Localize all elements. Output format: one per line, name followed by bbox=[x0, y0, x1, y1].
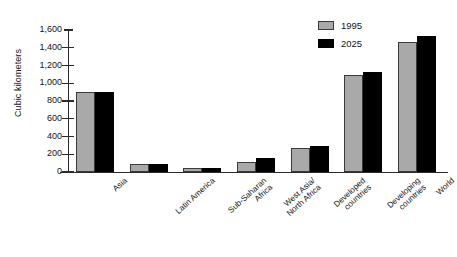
legend-swatch-1995-icon bbox=[318, 21, 334, 30]
bar-1995 bbox=[291, 148, 310, 172]
y-tick-label: 600 bbox=[16, 114, 62, 123]
bar-2025 bbox=[256, 158, 275, 172]
plot-area bbox=[68, 30, 444, 172]
bar-1995 bbox=[237, 162, 256, 172]
x-axis-label: World bbox=[435, 176, 457, 197]
y-tick-label: 400 bbox=[16, 132, 62, 141]
legend-label-2025: 2025 bbox=[341, 39, 362, 49]
y-tick-label: 1,600 bbox=[16, 25, 62, 34]
x-axis-label: Developedcountries bbox=[332, 176, 374, 216]
bar-1995 bbox=[344, 75, 363, 172]
x-axis-line bbox=[60, 172, 448, 173]
y-tick-label: 1,000 bbox=[16, 78, 62, 87]
bar-group bbox=[76, 30, 114, 172]
y-tick-label: 800 bbox=[16, 96, 62, 105]
bar-group bbox=[398, 30, 436, 172]
chart-legend: 1995 2025 bbox=[318, 18, 362, 54]
bar-2025 bbox=[95, 92, 114, 172]
y-tick-label: 1,200 bbox=[16, 61, 62, 70]
bar-2025 bbox=[149, 164, 168, 172]
y-tick-label: 0 bbox=[16, 167, 62, 176]
bar-2025 bbox=[202, 168, 221, 172]
legend-item-1995: 1995 bbox=[318, 18, 362, 33]
bar-1995 bbox=[398, 42, 417, 172]
y-tick-label: 1,400 bbox=[16, 43, 62, 52]
y-tick-label: 200 bbox=[16, 149, 62, 158]
legend-label-1995: 1995 bbox=[341, 21, 362, 31]
x-axis-label: West Asia/North Africa bbox=[279, 176, 323, 219]
bar-2025 bbox=[417, 36, 436, 172]
bar-1995 bbox=[183, 168, 202, 172]
legend-swatch-2025-icon bbox=[318, 39, 334, 48]
bar-1995 bbox=[76, 92, 95, 172]
x-axis-label: Developingcountries bbox=[386, 176, 429, 217]
bar-group bbox=[183, 30, 221, 172]
x-axis-label: Latin America bbox=[173, 176, 216, 216]
x-axis-label: Sub-SaharanAfrica bbox=[227, 176, 275, 222]
bar-group bbox=[130, 30, 168, 172]
legend-item-2025: 2025 bbox=[318, 36, 362, 51]
bar-2025 bbox=[310, 146, 329, 172]
x-axis-label: Asia bbox=[111, 176, 129, 194]
bar-2025 bbox=[363, 72, 382, 172]
bar-1995 bbox=[130, 164, 149, 172]
bar-group bbox=[237, 30, 275, 172]
